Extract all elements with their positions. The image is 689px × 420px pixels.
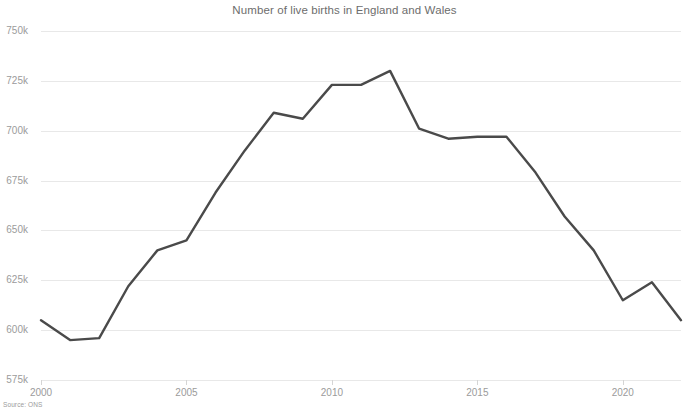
chart-title: Number of live births in England and Wal…: [0, 4, 689, 16]
y-axis-tick-label: 625k: [0, 275, 28, 285]
x-axis-tick-mark: [186, 380, 187, 385]
source-note: Source: ONS: [3, 401, 42, 408]
x-axis-tick-label: 2000: [11, 388, 71, 398]
x-axis-tick-label: 2020: [593, 388, 653, 398]
y-axis-tick-label: 725k: [0, 76, 28, 86]
x-axis-tick-mark: [477, 380, 478, 385]
line-series-svg: [41, 31, 681, 380]
gridline: [41, 380, 681, 381]
y-axis-tick-label: 650k: [0, 225, 28, 235]
y-axis-tick-label: 600k: [0, 325, 28, 335]
x-axis-tick-mark: [623, 380, 624, 385]
x-axis-tick-label: 2005: [156, 388, 216, 398]
y-axis-tick-label: 675k: [0, 176, 28, 186]
x-axis-tick-mark: [332, 380, 333, 385]
y-axis-tick-label: 575k: [0, 375, 28, 385]
y-axis-tick-label: 750k: [0, 26, 28, 36]
chart-container: Number of live births in England and Wal…: [0, 0, 689, 420]
x-axis-tick-label: 2015: [447, 388, 507, 398]
plot-area: 575k600k625k650k675k700k725k750k 2000200…: [41, 31, 681, 380]
x-axis-tick-label: 2010: [302, 388, 362, 398]
y-axis-tick-label: 700k: [0, 126, 28, 136]
line-series-path: [41, 71, 681, 340]
x-axis-tick-mark: [41, 380, 42, 385]
